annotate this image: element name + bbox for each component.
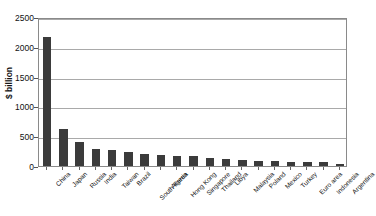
y-axis-tick-label: 2500 — [0, 14, 38, 23]
bar — [43, 37, 51, 166]
y-axis-tick-label: 1000 — [0, 103, 38, 112]
bar — [189, 156, 197, 166]
bar — [336, 164, 344, 166]
bar — [173, 156, 181, 166]
x-axis-tick-mark — [127, 167, 128, 170]
x-axis-tick-mark — [258, 167, 259, 170]
x-axis-tick-mark — [95, 167, 96, 170]
bar — [140, 154, 148, 166]
x-axis-tick-label: China — [55, 171, 72, 188]
bar — [238, 160, 246, 166]
bar — [222, 159, 230, 166]
bar — [108, 150, 116, 166]
x-axis-tick-mark — [225, 167, 226, 170]
x-axis-tick-mark — [46, 167, 47, 170]
y-axis-tick-label: 500 — [0, 133, 38, 142]
x-axis-tick-mark — [209, 167, 210, 170]
x-axis-tick-mark — [274, 167, 275, 170]
x-axis-labels: ChinaJapanRussiaIndiaTaiwanBrazilSouth K… — [38, 168, 347, 216]
y-axis-tick-label: 0 — [0, 163, 38, 172]
x-axis-tick-label: Japan — [72, 171, 89, 188]
x-axis-tick-mark — [79, 167, 80, 170]
plot-area — [38, 18, 347, 167]
bar — [92, 149, 100, 166]
bar — [319, 162, 327, 166]
x-axis-tick-label: Algeria — [170, 171, 189, 190]
x-axis-tick-mark — [241, 167, 242, 170]
bar-series — [39, 19, 346, 166]
bar — [75, 142, 83, 166]
bar — [59, 129, 67, 166]
y-axis-tick-label: 2000 — [0, 44, 38, 53]
x-axis-tick-mark — [111, 167, 112, 170]
bar — [206, 158, 214, 166]
x-axis-tick-mark — [339, 167, 340, 170]
x-axis-tick-mark — [62, 167, 63, 170]
bar — [124, 152, 132, 166]
y-axis-tick-label: 1500 — [0, 74, 38, 83]
x-axis-tick-mark — [193, 167, 194, 170]
bar — [287, 162, 295, 166]
bar — [303, 162, 311, 166]
x-axis-tick-mark — [290, 167, 291, 170]
x-axis-tick-mark — [306, 167, 307, 170]
x-axis-tick-mark — [323, 167, 324, 170]
bar — [157, 155, 165, 166]
x-axis-tick-mark — [144, 167, 145, 170]
x-axis-tick-mark — [160, 167, 161, 170]
x-axis-tick-mark — [176, 167, 177, 170]
bar — [254, 161, 262, 166]
bar — [271, 161, 279, 166]
